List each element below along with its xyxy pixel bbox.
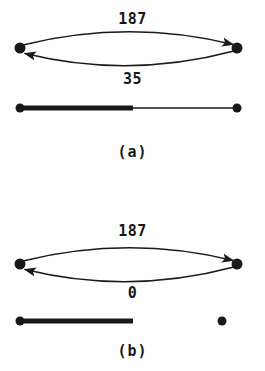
figure-canvas: 187 35 (a) 187 0 (b) (0, 0, 265, 371)
edge-label-bottom: 35 (0, 72, 265, 87)
bar-endpoint-detached (218, 317, 227, 326)
bar-endpoint-left (16, 104, 25, 113)
node-left[interactable] (15, 43, 26, 54)
node-right[interactable] (232, 259, 243, 270)
bar-endpoint-right (233, 104, 242, 113)
panel-caption-a: (a) (0, 145, 265, 160)
edge-top-arc (23, 248, 233, 261)
panel-b: 187 0 (b) (0, 186, 265, 371)
edge-bottom-arc (25, 51, 234, 66)
edge-label-bottom: 0 (0, 286, 265, 301)
node-left[interactable] (15, 259, 26, 270)
edge-bottom-arc (25, 267, 234, 282)
edge-top-arc (23, 32, 233, 45)
edge-label-top: 187 (0, 224, 265, 239)
panel-a: 187 35 (a) (0, 0, 265, 186)
edge-label-top: 187 (0, 12, 265, 27)
node-right[interactable] (232, 43, 243, 54)
bar-endpoint-left (16, 317, 25, 326)
panel-caption-b: (b) (0, 344, 265, 359)
